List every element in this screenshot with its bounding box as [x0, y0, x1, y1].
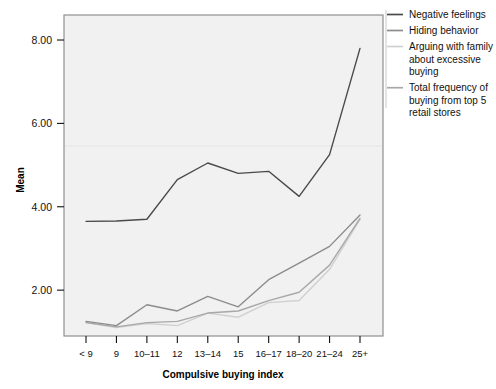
legend-label: Hiding behavior: [409, 25, 479, 36]
y-tick-label: 8.00: [32, 34, 53, 46]
x-tick-label: 21–24: [316, 348, 342, 359]
legend-label: retail stores: [409, 107, 461, 118]
x-tick-label: 10–11: [134, 348, 160, 359]
x-tick-label: 15: [233, 348, 244, 359]
chart-figure: 2.004.006.008.00 < 9910–111213–141516–17…: [0, 0, 496, 389]
x-tick-label: 18–20: [286, 348, 312, 359]
x-tick-label: 25+: [352, 348, 369, 359]
chart-legend: Negative feelingsHiding behaviorArguing …: [386, 9, 493, 118]
legend-label: buying: [409, 66, 438, 77]
y-tick-label: 6.00: [32, 117, 53, 129]
x-axis-title: Compulsive buying index: [162, 369, 284, 380]
line-chart-svg: 2.004.006.008.00 < 9910–111213–141516–17…: [0, 0, 496, 389]
legend-label: buying from top 5: [409, 95, 487, 106]
x-tick-label: < 9: [79, 348, 92, 359]
x-tick-label: 16–17: [255, 348, 281, 359]
legend-label: about excessive: [409, 54, 481, 65]
legend-label: Arguing with family: [409, 41, 493, 52]
y-axis-title: Mean: [15, 167, 26, 193]
x-tick-label: 12: [172, 348, 183, 359]
y-axis-ticks: 2.004.006.008.00: [32, 34, 64, 296]
legend-label: Negative feelings: [409, 9, 486, 20]
y-tick-label: 4.00: [32, 201, 53, 213]
x-tick-label: 13–14: [195, 348, 221, 359]
x-axis-ticks: < 9910–111213–141516–1718–2021–2425+: [79, 336, 368, 359]
plot-area-background: [64, 15, 383, 336]
y-tick-label: 2.00: [32, 284, 53, 296]
x-tick-label: 9: [114, 348, 119, 359]
legend-label: Total frequency of: [409, 82, 488, 93]
